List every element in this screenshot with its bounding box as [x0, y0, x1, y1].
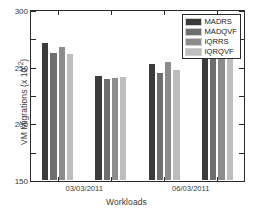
- x-tick-mark-top: [111, 11, 112, 15]
- bar-madrs-2: [94, 75, 102, 181]
- y-tick-label: 150: [15, 177, 28, 186]
- bar-iqrqvf-3: [172, 69, 180, 181]
- bar-iqrrs-3: [164, 61, 172, 181]
- y-tick-mark-right: [239, 11, 244, 12]
- legend-label: MADRS: [205, 17, 232, 26]
- bar-iqrrs-1: [58, 46, 66, 181]
- legend-item-iqrrs[interactable]: IQRRS: [185, 37, 238, 46]
- legend-label: IQRRS: [205, 37, 229, 46]
- x-tick-mark: 06/03/2011: [111, 177, 112, 181]
- y-tick-mark-right: [239, 96, 244, 97]
- bar-madqvf-2: [103, 78, 111, 181]
- bar-madqvf-4: [209, 39, 217, 181]
- legend-item-madrs[interactable]: MADRS: [185, 17, 238, 26]
- legend-item-madqvf[interactable]: MADQVF: [185, 27, 238, 36]
- bar-iqrqvf-1: [66, 53, 74, 181]
- legend-label: MADQVF: [205, 27, 238, 36]
- y-tick-label: 200: [15, 120, 28, 129]
- y-axis-label: VM Migrations (x 10-2): [17, 27, 29, 177]
- legend-swatch-icon: [185, 48, 202, 56]
- bar-madqvf-1: [49, 52, 57, 181]
- x-tick-mark-top: [58, 11, 59, 15]
- legend-swatch-icon: [185, 18, 202, 26]
- y-tick-mark: 100: [31, 124, 36, 125]
- legend-item-iqrqvf[interactable]: IQRQVF: [185, 47, 238, 56]
- bar-iqrqvf-2: [119, 76, 127, 181]
- y-tick-mark-right: [239, 124, 244, 125]
- x-axis-label: Workloads: [0, 197, 253, 207]
- y-tick-mark: 200: [31, 68, 36, 69]
- x-tick-mark: 09/03/2011: [164, 177, 165, 181]
- y-tick-mark: 50: [31, 153, 36, 154]
- x-tick-mark: 22/03/2011: [217, 177, 218, 181]
- legend-swatch-icon: [185, 28, 202, 36]
- x-tick-mark: 03/03/2011: [58, 177, 59, 181]
- bar-madrs-1: [41, 42, 49, 181]
- legend[interactable]: MADRSMADQVFIQRRSIQRQVF: [182, 14, 242, 59]
- legend-label: IQRQVF: [205, 47, 234, 56]
- y-tick-label: 250: [15, 63, 28, 72]
- bar-iqrrs-2: [111, 77, 119, 181]
- y-tick-label: 300: [15, 7, 28, 16]
- y-axis-label-text: VM Migrations (x 10: [19, 68, 29, 145]
- bar-madrs-3: [148, 63, 156, 181]
- y-tick-mark-right: [239, 181, 244, 182]
- y-tick-mark: 250: [31, 39, 36, 40]
- legend-swatch-icon: [185, 38, 202, 46]
- y-tick-mark: 150: [31, 96, 36, 97]
- figure-canvas: VM Migrations (x 10-2) 05010015020025030…: [0, 0, 253, 211]
- y-tick-mark-right: [239, 68, 244, 69]
- x-tick-mark-top: [164, 11, 165, 15]
- y-axis-label-close: ): [19, 59, 29, 62]
- x-tick-label: 06/03/2011: [172, 184, 209, 193]
- x-tick-label: 03/03/2011: [66, 184, 103, 193]
- y-tick-mark: 300: [31, 11, 36, 12]
- bar-madqvf-3: [156, 72, 164, 181]
- y-tick-mark: 0: [31, 181, 36, 182]
- bar-iqrqvf-4: [226, 38, 234, 181]
- plot-area: 050100150200250300 03/03/201106/03/20110…: [30, 10, 245, 182]
- y-tick-mark-right: [239, 153, 244, 154]
